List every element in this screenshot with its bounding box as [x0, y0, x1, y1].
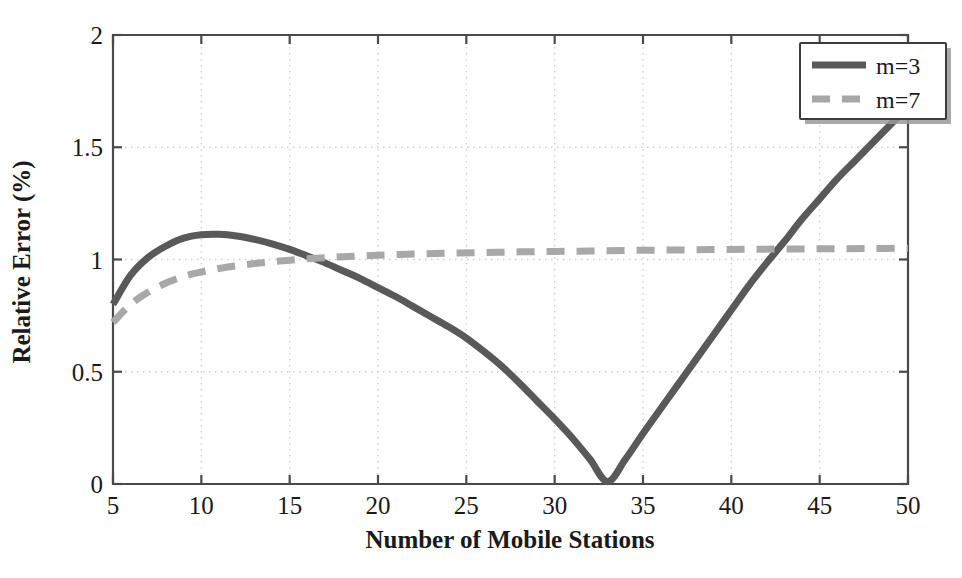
y-tick-label: 0.5 — [72, 359, 103, 386]
y-tick-label: 1.5 — [72, 134, 103, 161]
y-axis-title: Relative Error (%) — [8, 160, 36, 363]
x-tick-label: 5 — [107, 492, 120, 519]
x-tick-label: 20 — [366, 492, 391, 519]
x-tick-label: 45 — [807, 492, 832, 519]
legend-label-m3: m=3 — [876, 53, 920, 79]
chart-figure-root: 00.511.52 5101520253035404550 Number of … — [0, 0, 962, 578]
x-tick-label: 15 — [277, 492, 302, 519]
relative-error-line-chart: 00.511.52 5101520253035404550 Number of … — [0, 0, 962, 578]
x-tick-label: 35 — [631, 492, 656, 519]
y-tick-label: 0 — [91, 471, 104, 498]
x-tick-label: 50 — [896, 492, 921, 519]
x-tick-label: 30 — [542, 492, 567, 519]
chart-legend[interactable]: m=3 m=7 — [800, 43, 951, 124]
x-tick-label: 25 — [454, 492, 479, 519]
y-tick-label: 1 — [91, 247, 104, 274]
legend-label-m7: m=7 — [876, 87, 920, 113]
x-tick-label: 10 — [189, 492, 214, 519]
legend-background — [800, 43, 946, 119]
x-axis-title: Number of Mobile Stations — [365, 526, 654, 553]
y-tick-label: 2 — [91, 22, 104, 49]
x-tick-label: 40 — [719, 492, 744, 519]
